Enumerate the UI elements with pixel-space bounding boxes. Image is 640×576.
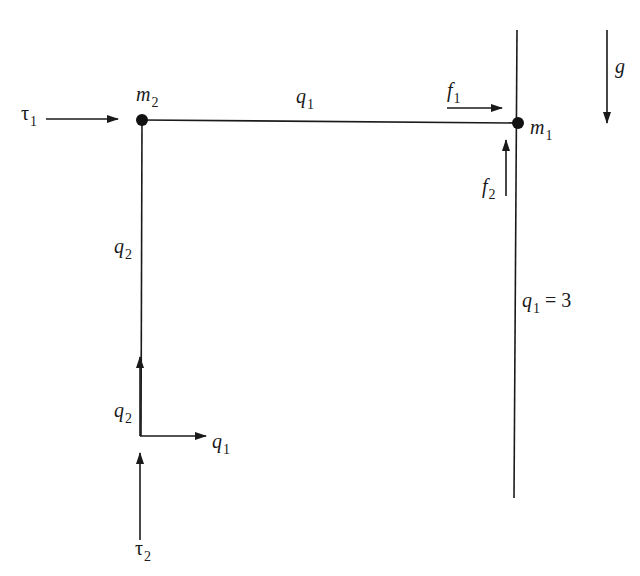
label-m2-sub: 2	[151, 95, 158, 110]
label-link-q1-base: q	[296, 85, 306, 107]
label-axis-q1: q1	[212, 431, 230, 451]
label-f2: f2	[482, 176, 496, 196]
label-constraint: q1 = 3	[522, 290, 571, 310]
label-tau1-sub: 1	[30, 114, 37, 129]
label-link-q2-sub: 2	[125, 247, 132, 262]
label-gravity-base: g	[615, 55, 625, 77]
label-link-q1: q1	[296, 86, 314, 106]
manipulator-diagram	[0, 0, 640, 576]
label-axis-q1-sub: 1	[223, 442, 230, 457]
label-f2-sub: 2	[489, 187, 496, 202]
label-tau1-base: τ	[21, 102, 29, 124]
label-axis-q1-base: q	[212, 430, 222, 452]
label-link-q2-base: q	[114, 235, 124, 257]
label-f1-sub: 1	[454, 91, 461, 106]
label-constraint-eq: = 3	[545, 289, 571, 311]
label-link-q1-sub: 1	[307, 97, 314, 112]
label-f1: f1	[447, 80, 461, 100]
label-tau2-base: τ	[135, 537, 143, 559]
link-q2	[141, 120, 142, 436]
label-m1-sub: 1	[545, 128, 552, 143]
label-axis-q2-base: q	[114, 399, 124, 421]
label-m2-base: m	[136, 83, 150, 105]
label-f2-base: f	[482, 175, 488, 197]
label-m2: m2	[136, 84, 158, 104]
label-link-q2: q2	[114, 236, 132, 256]
constraint-line	[514, 30, 517, 498]
label-tau2-sub: 2	[144, 549, 151, 564]
mass-m1	[512, 117, 524, 129]
label-gravity: g	[615, 56, 625, 76]
label-tau2: τ2	[135, 538, 151, 558]
label-m1-base: m	[530, 116, 544, 138]
link-q1	[142, 120, 518, 123]
label-constraint-base: q	[522, 289, 532, 311]
label-tau1: τ1	[21, 103, 37, 123]
label-axis-q2-sub: 2	[125, 411, 132, 426]
label-constraint-sub: 1	[533, 301, 540, 316]
label-axis-q2: q2	[114, 400, 132, 420]
label-m1: m1	[530, 117, 552, 137]
mass-m2	[136, 114, 148, 126]
label-f1-base: f	[447, 79, 453, 101]
